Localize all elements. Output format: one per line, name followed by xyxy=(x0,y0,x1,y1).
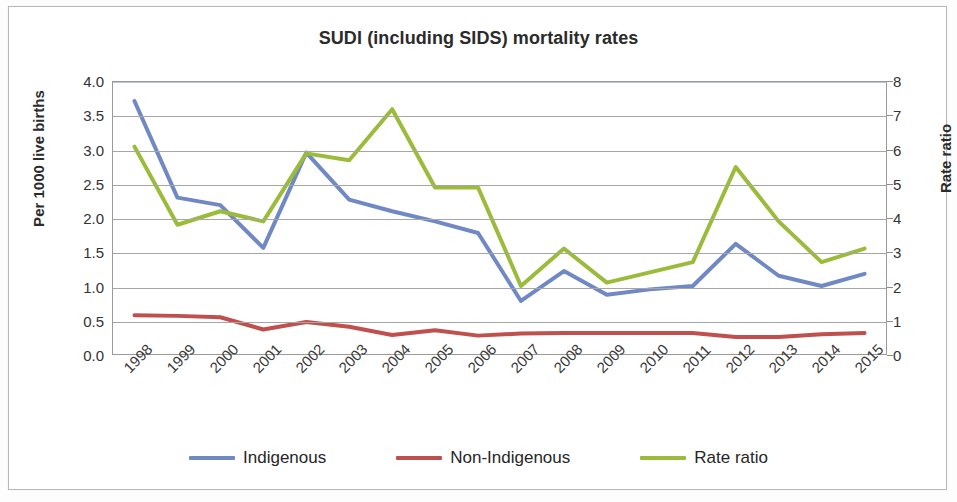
y-axis-left-tick-label: 4.0 xyxy=(83,73,104,90)
y-axis-left-tick-label: 1.5 xyxy=(83,244,104,261)
y-axis-right-tick-mark xyxy=(887,115,893,116)
y-axis-right-tick-label: 5 xyxy=(893,175,901,192)
legend-label: Rate ratio xyxy=(694,448,768,468)
y-axis-right-tick-label: 4 xyxy=(893,210,901,227)
legend-label: Indigenous xyxy=(243,448,326,468)
y-axis-right-tick-label: 8 xyxy=(893,73,901,90)
series-line xyxy=(134,315,864,337)
gridline xyxy=(113,151,886,152)
y-axis-right-tick-mark xyxy=(887,184,893,185)
legend-item[interactable]: Non-Indigenous xyxy=(396,448,570,468)
y-axis-left-tick-label: 2.0 xyxy=(83,210,104,227)
y-axis-right-tick-mark xyxy=(887,150,893,151)
legend-item[interactable]: Indigenous xyxy=(189,448,326,468)
y-axis-right-tick-label: 2 xyxy=(893,278,901,295)
y-axis-right-tick-mark xyxy=(887,321,893,322)
y-axis-right-tick-mark xyxy=(887,81,893,82)
gridline xyxy=(113,322,886,323)
gridline xyxy=(113,116,886,117)
series-line xyxy=(134,101,864,301)
y-axis-left-tick-label: 0.5 xyxy=(83,312,104,329)
legend-swatch xyxy=(396,456,442,460)
legend-item[interactable]: Rate ratio xyxy=(640,448,768,468)
gridline xyxy=(113,288,886,289)
legend-swatch xyxy=(640,456,686,460)
y-axis-right-ticks: 876543210 xyxy=(893,81,923,355)
gridline xyxy=(113,253,886,254)
chart-legend: IndigenousNon-IndigenousRate ratio xyxy=(0,448,957,468)
gridline xyxy=(113,82,886,83)
y-axis-left-tick-label: 3.0 xyxy=(83,141,104,158)
y-axis-right-tick-label: 1 xyxy=(893,312,901,329)
y-axis-left-tick-label: 2.5 xyxy=(83,175,104,192)
y-axis-right-tick-label: 7 xyxy=(893,107,901,124)
plot-area xyxy=(112,81,887,355)
y-axis-left-title: Per 1000 live births xyxy=(30,59,47,259)
gridline xyxy=(113,185,886,186)
y-axis-right-tick-label: 0 xyxy=(893,347,901,364)
y-axis-right-tick-mark xyxy=(887,355,893,356)
legend-label: Non-Indigenous xyxy=(450,448,570,468)
y-axis-left-tick-label: 3.5 xyxy=(83,107,104,124)
y-axis-right-tick-mark xyxy=(887,218,893,219)
chart-screenshot: SUDI (including SIDS) mortality rates Pe… xyxy=(0,0,957,502)
y-axis-left-ticks: 4.03.53.02.52.01.51.00.50.0 xyxy=(52,81,104,355)
y-axis-right-tick-label: 3 xyxy=(893,244,901,261)
y-axis-right-tick-mark xyxy=(887,252,893,253)
chart-title: SUDI (including SIDS) mortality rates xyxy=(0,28,957,49)
legend-swatch xyxy=(189,456,235,460)
y-axis-right-tick-label: 6 xyxy=(893,141,901,158)
y-axis-left-tick-label: 0.0 xyxy=(83,347,104,364)
y-axis-right-tick-mark xyxy=(887,287,893,288)
gridline xyxy=(113,219,886,220)
y-axis-right-title: Rate ratio xyxy=(937,59,954,259)
x-axis-ticks: 1998199920002001200220032004200520062007… xyxy=(112,358,887,418)
series-lines xyxy=(113,82,886,354)
y-axis-left-tick-label: 1.0 xyxy=(83,278,104,295)
